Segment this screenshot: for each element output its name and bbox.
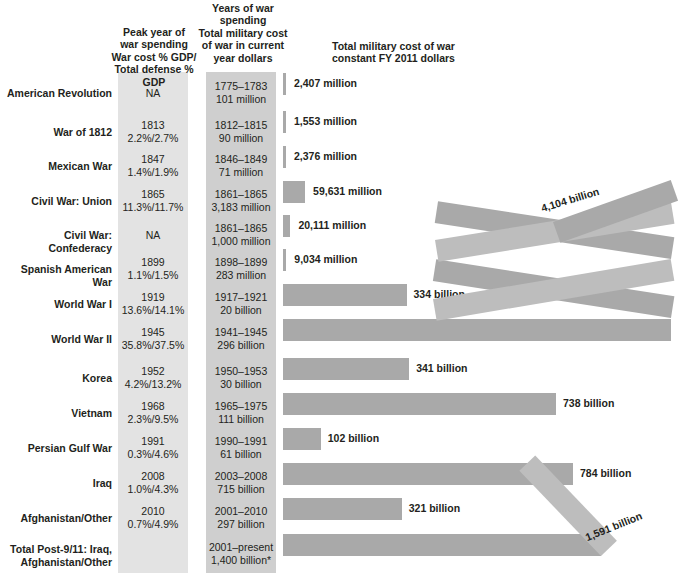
chart-bar	[283, 284, 407, 306]
war-name-line-1: Civil War: Union	[0, 195, 112, 208]
war-years-cell: 2003–2008715 billion	[206, 470, 276, 495]
war-current-dollar-cost: 283 million	[206, 269, 276, 282]
peak-year-value: 1952	[141, 365, 164, 377]
war-name-label: Total Post-9/11: Iraq,Afghanistan/Other	[0, 543, 112, 568]
war-name-line-1: Iraq	[0, 477, 112, 490]
chart-bar	[283, 146, 286, 168]
war-current-dollar-cost: 61 billion	[206, 448, 276, 461]
war-years-range: 1965–1975	[215, 400, 268, 412]
header-line-4: of war in current	[198, 39, 288, 51]
peak-year-value: 1919	[141, 291, 164, 303]
war-name-line-2: Afghanistan/Other	[0, 556, 112, 569]
bar-value-label: 341 billion	[416, 362, 467, 374]
peak-gdp-percent: 0.7%/4.9%	[118, 518, 188, 531]
column-header-chart: Total military cost of war constant FY 2…	[332, 40, 532, 65]
bar-value-label: 102 billion	[328, 432, 379, 444]
war-years-cell: 1950–195330 billion	[206, 365, 276, 390]
peak-gdp-percent: 1.1%/1.5%	[118, 269, 188, 282]
chart-bar	[283, 358, 409, 380]
war-name-label: War of 1812	[0, 126, 112, 139]
war-name-label: World War II	[0, 333, 112, 346]
war-current-dollar-cost: 715 billion	[206, 483, 276, 496]
peak-year-value: 1813	[141, 119, 164, 131]
peak-year-cell: 186511.3%/11.7%	[118, 188, 188, 213]
war-years-cell: 1941–1945296 billion	[206, 326, 276, 351]
war-name-line-1: Spanish American War	[0, 263, 112, 288]
chart-bar	[283, 111, 286, 133]
war-name-line-1: World War II	[0, 333, 112, 346]
war-current-dollar-cost: 1,000 million	[206, 235, 276, 248]
war-current-dollar-cost: 71 million	[206, 166, 276, 179]
chart-bar-folded-trunk	[283, 319, 671, 341]
war-name-label: Civil War: Confederacy	[0, 229, 112, 254]
chart-bar	[283, 181, 305, 203]
war-years-cell: 1917–192120 billion	[206, 291, 276, 316]
war-name-line-1: Korea	[0, 372, 112, 385]
war-years-range: 1917–1921	[215, 291, 268, 303]
war-years-range: 1861–1865	[215, 188, 268, 200]
war-current-dollar-cost: 90 million	[206, 132, 276, 145]
peak-year-cell: 18132.2%/2.7%	[118, 119, 188, 144]
peak-year-cell: 20100.7%/4.9%	[118, 505, 188, 530]
chart-bar	[283, 215, 290, 237]
header-line-2: war spending	[108, 38, 200, 50]
war-years-range: 1950–1953	[215, 365, 268, 377]
bar-value-label: 20,111 million	[298, 219, 366, 231]
bar-value-label: 59,631 million	[313, 185, 382, 197]
war-current-dollar-cost: 30 billion	[206, 378, 276, 391]
header-line-3: War cost % GDP/	[108, 51, 200, 63]
war-years-cell: 1990–199161 billion	[206, 435, 276, 460]
peak-gdp-percent: 35.8%/37.5%	[118, 339, 188, 352]
header-line-2: constant FY 2011 dollars	[332, 52, 532, 64]
peak-year-value: 1899	[141, 256, 164, 268]
war-current-dollar-cost: 101 million	[206, 93, 276, 106]
war-name-line-1: World War I	[0, 298, 112, 311]
war-years-cell: 1775–1783101 million	[206, 80, 276, 105]
war-name-label: American Revolution	[0, 87, 112, 100]
chart-bar	[283, 249, 286, 271]
chart-bar	[283, 73, 286, 95]
war-name-line-1: Vietnam	[0, 407, 112, 420]
war-name-line-1: American Revolution	[0, 87, 112, 100]
war-years-range: 1812–1815	[215, 119, 268, 131]
peak-gdp-percent: 11.3%/11.7%	[118, 201, 188, 214]
war-current-dollar-cost: 111 billion	[206, 413, 276, 426]
peak-year-cell: NA	[118, 229, 188, 242]
bar-value-label: 738 billion	[563, 397, 614, 409]
bar-value-label: 1,553 million	[294, 115, 357, 127]
war-name-line-1: Total Post-9/11: Iraq,	[0, 543, 112, 556]
peak-year-value: NA	[146, 229, 161, 241]
war-years-range: 2001–2010	[215, 505, 268, 517]
war-years-range: 2001–present	[209, 541, 273, 553]
bar-value-label: 321 billion	[409, 502, 460, 514]
bar-value-label: 2,376 million	[294, 150, 357, 162]
header-line-5: year dollars	[198, 52, 288, 64]
war-name-label: Iraq	[0, 477, 112, 490]
war-name-label: Afghanistan/Other	[0, 512, 112, 525]
war-years-cell: 1861–18651,000 million	[206, 222, 276, 247]
war-name-line-1: Mexican War	[0, 160, 112, 173]
chart-bar	[283, 428, 321, 450]
peak-year-value: 1865	[141, 188, 164, 200]
peak-year-value: 1847	[141, 153, 164, 165]
war-current-dollar-cost: 20 billion	[206, 304, 276, 317]
war-name-label: Persian Gulf War	[0, 442, 112, 455]
war-years-range: 1861–1865	[215, 222, 268, 234]
peak-gdp-percent: 13.6%/14.1%	[118, 304, 188, 317]
peak-year-value: 2010	[141, 505, 164, 517]
peak-year-cell: 18471.4%/1.9%	[118, 153, 188, 178]
peak-year-value: NA	[146, 87, 161, 99]
peak-year-cell: 20081.0%/4.3%	[118, 470, 188, 495]
header-line-1: Years of war	[198, 2, 288, 14]
column-header-war-years: Years of war spending Total military cos…	[198, 2, 288, 64]
bar-value-label: 2,407 million	[294, 77, 357, 89]
peak-year-cell: 19682.3%/9.5%	[118, 400, 188, 425]
war-name-line-1: Afghanistan/Other	[0, 512, 112, 525]
war-years-range: 1775–1783	[215, 80, 268, 92]
peak-gdp-percent: 1.0%/4.3%	[118, 483, 188, 496]
war-name-label: Spanish American War	[0, 263, 112, 288]
bar-value-label: 784 billion	[580, 467, 631, 479]
header-line-4: Total defense % GDP	[108, 63, 200, 88]
column-band-war-years	[206, 72, 276, 573]
